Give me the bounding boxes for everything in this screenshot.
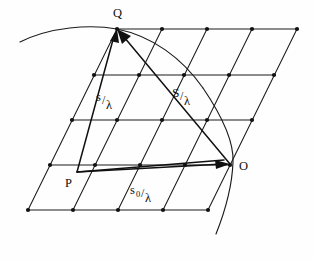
lattice-dot: [93, 163, 97, 167]
vector-label-s0-denominator: λ: [145, 191, 151, 205]
lattice-dot: [71, 208, 75, 212]
lattice-dot: [182, 73, 186, 77]
lattice-dot: [137, 73, 141, 77]
vector-label-s-denominator: λ: [106, 98, 112, 112]
vector-label-S-denominator: λ: [184, 94, 190, 108]
vector-label-s0-numerator: s: [130, 183, 135, 197]
lattice-dot: [205, 27, 209, 31]
lattice-dot: [161, 208, 165, 212]
lattice-dot: [272, 73, 276, 77]
lattice-dot: [48, 163, 52, 167]
ewald-diagram-svg: Q P O s / λ S / λ s 0 / λ: [0, 0, 314, 262]
vector-s0-over-lambda: [77, 160, 230, 172]
lattice-dot: [160, 118, 164, 122]
lattice-dot: [250, 27, 254, 31]
lattice-dot: [250, 118, 254, 122]
lattice-dot: [92, 73, 96, 77]
vector-s-over-lambda-arrowhead: [110, 29, 119, 43]
vector-label-s0-subscript: 0: [136, 189, 140, 199]
vector-label-s-numerator: s: [96, 90, 101, 104]
lattice-dot: [206, 208, 210, 212]
lattice-dot: [227, 73, 231, 77]
vector-label-s0-over-lambda: s 0 / λ: [130, 183, 151, 205]
vector-s0-over-lambda-second-stroke: [77, 160, 224, 172]
vector-label-S-numerator: S: [172, 85, 180, 100]
lattice-dot: [70, 118, 74, 122]
lattice-dot: [160, 27, 164, 31]
lattice-dot: [115, 118, 119, 122]
point-label-O: O: [239, 159, 248, 173]
point-label-Q: Q: [113, 6, 122, 20]
lattice-dot: [116, 208, 120, 212]
lattice-dot: [26, 208, 30, 212]
vector-S-over-lambda-shaft: [124, 37, 230, 164]
point-label-P: P: [65, 176, 72, 190]
lattice-dot: [205, 118, 209, 122]
lattice-dot: [295, 27, 299, 31]
vector-label-s-over-lambda: s / λ: [96, 90, 112, 112]
ewald-sphere-arc-upper: [20, 27, 203, 88]
ewald-diagram-figure: Q P O s / λ S / λ s 0 / λ: [0, 0, 314, 262]
